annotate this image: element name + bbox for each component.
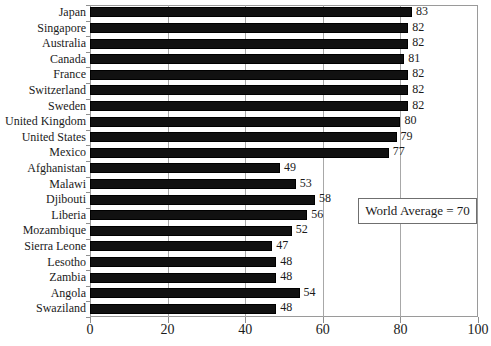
category-label: Djibouti (0, 192, 86, 208)
bar (90, 132, 397, 142)
bar-value-label: 58 (319, 191, 331, 207)
value-axis-tick-label: 40 (238, 322, 252, 338)
value-axis-tick-label: 0 (87, 322, 94, 338)
bar-value-label: 47 (276, 238, 288, 254)
value-axis-tick-label: 100 (468, 322, 489, 338)
bar-row: 48 (90, 301, 478, 317)
bar-row: 47 (90, 239, 478, 255)
category-label: Malawi (0, 177, 86, 193)
category-label: Canada (0, 52, 86, 68)
bar-series: 8382828182828280797749535856524748485448 (90, 5, 478, 317)
category-label: Singapore (0, 21, 86, 37)
bar-value-label: 82 (412, 35, 424, 51)
category-label: Zambia (0, 270, 86, 286)
bar-value-label: 49 (284, 160, 296, 176)
category-label: United States (0, 130, 86, 146)
category-label: Sweden (0, 99, 86, 115)
category-label: Angola (0, 286, 86, 302)
bar (90, 54, 404, 64)
category-label: Sierra Leone (0, 239, 86, 255)
bar-value-label: 56 (311, 207, 323, 223)
bar-row: 49 (90, 161, 478, 177)
bar-row: 81 (90, 52, 478, 68)
bar-row: 48 (90, 255, 478, 271)
bar-value-label: 82 (412, 20, 424, 36)
bar (90, 39, 408, 49)
category-label: Mozambique (0, 223, 86, 239)
bar-row: 52 (90, 223, 478, 239)
bar (90, 101, 408, 111)
bar-value-label: 79 (401, 129, 413, 145)
bar-row: 83 (90, 5, 478, 21)
category-label: Australia (0, 36, 86, 52)
value-axis-tick-label: 20 (161, 322, 175, 338)
world-average-annotation-label: World Average = 70 (365, 203, 470, 219)
bar-row: 77 (90, 145, 478, 161)
category-label: United Kingdom (0, 114, 86, 130)
bar-row: 79 (90, 130, 478, 146)
bar-value-label: 82 (412, 98, 424, 114)
bar (90, 273, 276, 283)
world-average-annotation: World Average = 70 (358, 198, 477, 224)
bar-value-label: 53 (300, 176, 312, 192)
bar (90, 85, 408, 95)
bar (90, 23, 408, 33)
bar-value-label: 48 (280, 254, 292, 270)
category-axis-labels: JapanSingaporeAustraliaCanadaFranceSwitz… (0, 5, 86, 317)
bar (90, 288, 300, 298)
bar-row: 53 (90, 177, 478, 193)
bar (90, 179, 296, 189)
bar (90, 304, 276, 314)
category-label: Lesotho (0, 255, 86, 271)
bar (90, 195, 315, 205)
category-label: Switzerland (0, 83, 86, 99)
value-axis-tick-label: 80 (393, 322, 407, 338)
bar-value-label: 82 (412, 82, 424, 98)
bar-row: 82 (90, 67, 478, 83)
bar-value-label: 48 (280, 300, 292, 316)
bar (90, 117, 400, 127)
bar-value-label: 80 (404, 113, 416, 129)
bar-value-label: 77 (393, 144, 405, 160)
bar (90, 163, 280, 173)
bar (90, 210, 307, 220)
bar-value-label: 52 (296, 222, 308, 238)
category-label: Mexico (0, 145, 86, 161)
bar-chart: JapanSingaporeAustraliaCanadaFranceSwitz… (0, 0, 491, 346)
bar-value-label: 48 (280, 269, 292, 285)
category-label: Swaziland (0, 301, 86, 317)
bar (90, 70, 408, 80)
category-label: Japan (0, 5, 86, 21)
bar-value-label: 83 (416, 4, 428, 20)
bar-value-label: 82 (412, 66, 424, 82)
bar-row: 82 (90, 83, 478, 99)
category-label: Liberia (0, 208, 86, 224)
value-axis-labels: 020406080100 (0, 322, 491, 344)
bar (90, 148, 389, 158)
category-label: Afghanistan (0, 161, 86, 177)
bar-row: 54 (90, 286, 478, 302)
category-label: France (0, 67, 86, 83)
value-axis-tick-label: 60 (316, 322, 330, 338)
bar-row: 82 (90, 21, 478, 37)
bar-row: 80 (90, 114, 478, 130)
bar-row: 82 (90, 36, 478, 52)
bar-row: 82 (90, 99, 478, 115)
bar (90, 241, 272, 251)
bar (90, 7, 412, 17)
bar-value-label: 81 (408, 51, 420, 67)
bar (90, 257, 276, 267)
bar-row: 48 (90, 270, 478, 286)
bar-value-label: 54 (304, 285, 316, 301)
bar (90, 226, 292, 236)
